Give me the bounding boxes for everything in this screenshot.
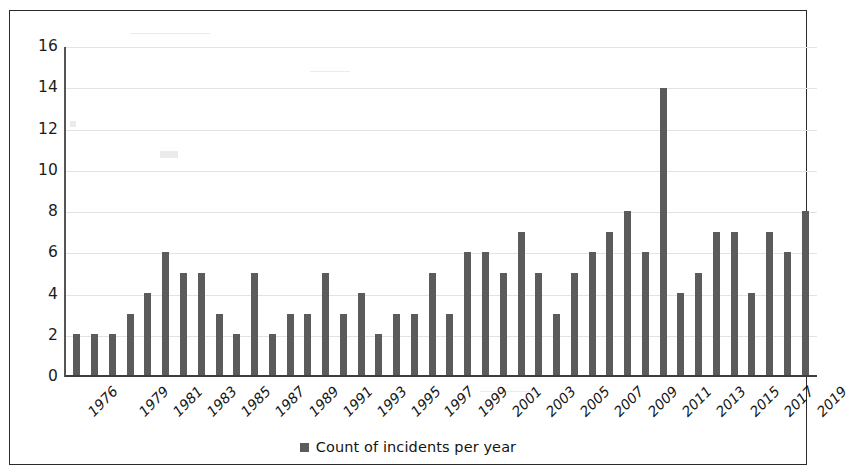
- bar: [304, 314, 311, 376]
- bar: [482, 252, 489, 375]
- bar-slot: [210, 47, 228, 375]
- x-axis-tick-slot: 1997: [424, 381, 441, 437]
- bar: [109, 334, 116, 375]
- bar: [198, 273, 205, 376]
- bar-slot: [370, 47, 388, 375]
- bar: [535, 273, 542, 376]
- bar-slot: [263, 47, 281, 375]
- x-axis-tick-slot: [305, 381, 322, 437]
- bar-slot: [299, 47, 317, 375]
- x-axis-tick-slot: [170, 381, 187, 437]
- x-axis-tick-slot: [238, 381, 255, 437]
- bar-slot: [352, 47, 370, 375]
- x-axis-tick-slot: [373, 381, 390, 437]
- bar-slot: [157, 47, 175, 375]
- bar-slot: [779, 47, 797, 375]
- x-axis-tick-slot: 2003: [526, 381, 543, 437]
- x-axis-tick-slot: 1989: [288, 381, 305, 437]
- x-axis-tick-slot: 1979: [119, 381, 136, 437]
- bar: [500, 273, 507, 376]
- x-axis-tick-slot: [271, 381, 288, 437]
- bar: [553, 314, 560, 376]
- x-axis-tick-slot: [780, 381, 797, 437]
- x-axis-tick-slot: [644, 381, 661, 437]
- bar-slot: [104, 47, 122, 375]
- y-axis-tick-label: 10: [38, 163, 58, 179]
- x-axis-line: [65, 375, 817, 377]
- x-axis-tick-slot: 1985: [221, 381, 238, 437]
- x-axis-tick-slot: [441, 381, 458, 437]
- x-axis-tick-slot: 2013: [695, 381, 712, 437]
- y-axis-tick-label: 6: [48, 246, 58, 262]
- x-axis-tick-slot: [204, 381, 221, 437]
- bar-slot: [601, 47, 619, 375]
- bar: [518, 232, 525, 376]
- bar-slot: [708, 47, 726, 375]
- bar: [784, 252, 791, 375]
- bar: [748, 293, 755, 375]
- bar: [216, 314, 223, 376]
- bar: [589, 252, 596, 375]
- bar-slot: [565, 47, 583, 375]
- bar-slot: [441, 47, 459, 375]
- bar-slot: [317, 47, 335, 375]
- bar-slot: [388, 47, 406, 375]
- x-axis-tick-label: 2019: [814, 383, 850, 420]
- bar: [322, 273, 329, 376]
- x-axis-tick-slot: 1987: [254, 381, 271, 437]
- bar-slot: [139, 47, 157, 375]
- x-axis-tick-slot: [136, 381, 153, 437]
- bar: [375, 334, 382, 375]
- x-axis-tick-slot: [339, 381, 356, 437]
- bar-slot: [121, 47, 139, 375]
- bar-slot: [192, 47, 210, 375]
- y-axis-tick-label: 4: [48, 287, 58, 303]
- bar: [127, 314, 134, 376]
- bar: [393, 314, 400, 376]
- legend-swatch-icon: [300, 443, 309, 452]
- bar-slot: [406, 47, 424, 375]
- bar: [162, 252, 169, 375]
- bar-slot: [175, 47, 193, 375]
- x-axis-tick-slot: 1995: [390, 381, 407, 437]
- bar: [464, 252, 471, 375]
- bar-slot: [281, 47, 299, 375]
- x-axis-tick-slot: [678, 381, 695, 437]
- y-axis-tick-label: 16: [38, 39, 58, 55]
- x-axis-tick-slot: 2011: [661, 381, 678, 437]
- bar: [695, 273, 702, 376]
- bar: [358, 293, 365, 375]
- y-axis-tick-label: 0: [48, 369, 58, 385]
- x-axis-tick-slot: 2019: [797, 381, 814, 437]
- x-axis-labels: 1976197919811983198519871989199119931995…: [65, 381, 817, 437]
- x-axis-tick-slot: 2007: [594, 381, 611, 437]
- x-axis-tick-slot: 2001: [492, 381, 509, 437]
- bar-slot: [459, 47, 477, 375]
- bar: [144, 293, 151, 375]
- bar-slot: [725, 47, 743, 375]
- bar: [571, 273, 578, 376]
- x-axis-tick-slot: 2017: [763, 381, 780, 437]
- bar: [269, 334, 276, 375]
- plot-area: [65, 47, 817, 377]
- legend: Count of incidents per year: [10, 439, 806, 455]
- x-axis-tick-slot: [712, 381, 729, 437]
- x-axis-tick-slot: 1983: [187, 381, 204, 437]
- bar: [677, 293, 684, 375]
- bar-slot: [334, 47, 352, 375]
- bar: [713, 232, 720, 376]
- bar-slot: [68, 47, 86, 375]
- bar: [802, 211, 809, 375]
- y-axis-tick-label: 8: [48, 204, 58, 220]
- bar-slot: [530, 47, 548, 375]
- x-axis-tick-slot: [543, 381, 560, 437]
- x-axis-tick-slot: 1999: [458, 381, 475, 437]
- x-axis-tick-slot: [475, 381, 492, 437]
- chart-frame: 1614121086420 19761979198119831985198719…: [9, 10, 807, 465]
- bar: [340, 314, 347, 376]
- bar: [624, 211, 631, 375]
- bar: [429, 273, 436, 376]
- bar-slot: [423, 47, 441, 375]
- x-axis-tick-slot: [746, 381, 763, 437]
- bar: [73, 334, 80, 375]
